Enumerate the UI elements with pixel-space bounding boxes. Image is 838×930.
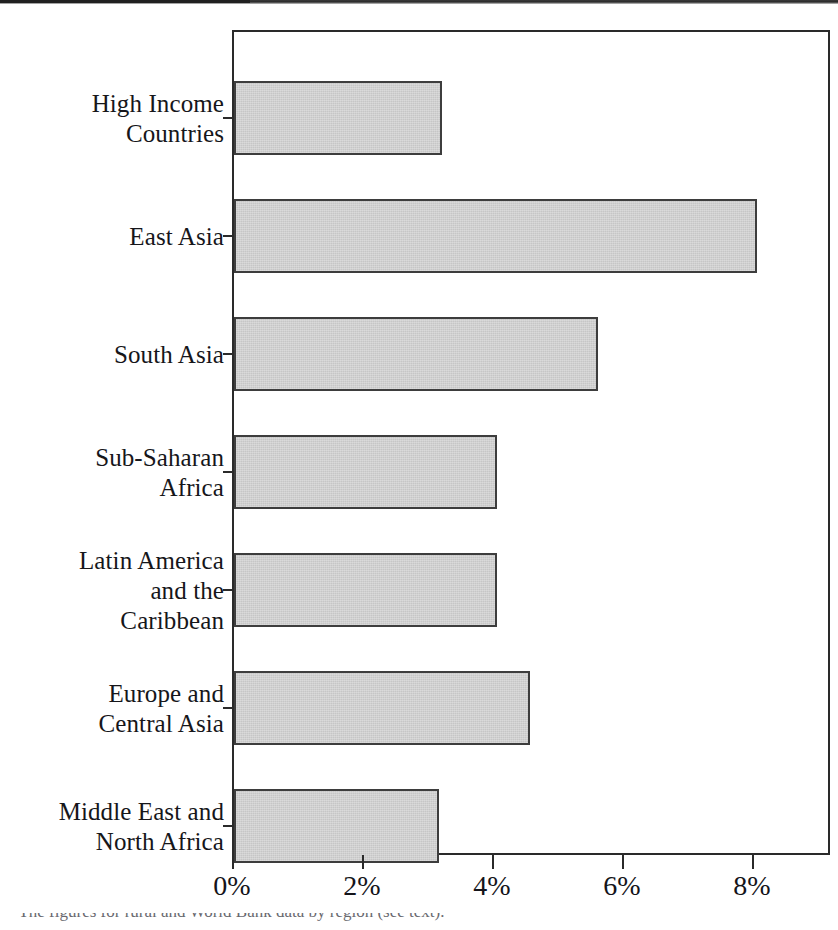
category-label: High Income Countries: [8, 89, 224, 149]
y-axis-tick: [223, 117, 234, 119]
x-axis-tick: [232, 855, 234, 869]
y-axis-tick: [223, 589, 234, 591]
figure-footnote-text: * The figures for rural and World Bank d…: [6, 913, 832, 921]
x-axis-tick: [492, 855, 494, 869]
x-axis-tick-label: 8%: [733, 869, 770, 903]
y-axis-tick: [223, 353, 234, 355]
x-axis-tick-label: 6%: [603, 869, 640, 903]
bar: [234, 81, 442, 155]
category-label: Middle East and North Africa: [8, 797, 224, 857]
y-axis-tick: [223, 235, 234, 237]
bar: [234, 435, 497, 509]
bar: [234, 789, 439, 863]
y-axis-tick: [223, 707, 234, 709]
bar: [234, 199, 757, 273]
category-label: Latin America and the Caribbean: [8, 546, 224, 636]
figure-footnote: * The figures for rural and World Bank d…: [6, 913, 832, 930]
category-axis-labels: High Income Countries East Asia South As…: [8, 30, 224, 855]
bar: [234, 553, 497, 627]
category-label: Sub-Saharan Africa: [8, 443, 224, 503]
x-axis-tick-label: 4%: [473, 869, 510, 903]
plot-inner: [234, 32, 828, 853]
x-axis-tick-label: 2%: [343, 869, 380, 903]
y-axis-tick: [223, 825, 234, 827]
bar: [234, 317, 598, 391]
x-axis-ticks: [232, 855, 830, 869]
x-axis-tick: [362, 855, 364, 869]
x-axis-tick: [752, 855, 754, 869]
x-axis-tick: [622, 855, 624, 869]
x-axis-tick-labels: 0% 2% 4% 6% 8%: [232, 869, 830, 909]
bar: [234, 671, 530, 745]
category-label: South Asia: [8, 340, 224, 370]
bar-chart-figure: High Income Countries East Asia South As…: [0, 0, 838, 930]
y-axis-tick: [223, 471, 234, 473]
category-label: East Asia: [8, 222, 224, 252]
plot-area: [232, 30, 830, 855]
category-label: Europe and Central Asia: [8, 679, 224, 739]
x-axis-tick-label: 0%: [213, 869, 250, 903]
